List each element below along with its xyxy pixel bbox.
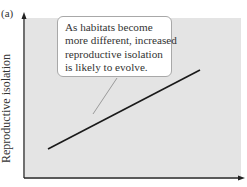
x-axis-arrow-icon (238, 176, 245, 181)
annotation-callout: As habitats become more different, incre… (57, 16, 172, 77)
callout-line: is likely to evolve. (65, 61, 171, 74)
callout-line: more different, increased (65, 34, 171, 47)
callout-line: reproductive isolation (65, 48, 171, 61)
callout-line: As habitats become (65, 21, 171, 34)
y-axis-arrow-icon (22, 12, 27, 19)
